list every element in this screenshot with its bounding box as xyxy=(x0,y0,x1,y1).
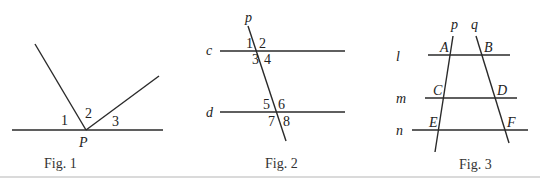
fig3-point-E: E xyxy=(428,115,438,130)
fig3-label-q: q xyxy=(471,17,478,32)
fig2-transversal-p xyxy=(248,26,286,141)
fig3-label-m: m xyxy=(396,91,406,106)
fig3-point-D: D xyxy=(496,83,507,98)
fig2-angle-7: 7 xyxy=(268,114,275,129)
fig3-point-C: C xyxy=(433,83,443,98)
fig3-label-n: n xyxy=(396,123,403,138)
fig3-point-A: A xyxy=(439,40,449,55)
fig3-label-p: p xyxy=(450,17,458,32)
fig1-angle-2: 2 xyxy=(85,106,92,121)
fig1-angle-3: 3 xyxy=(112,114,119,129)
fig3-caption: Fig. 3 xyxy=(459,157,492,172)
fig2-label-c: c xyxy=(206,43,213,58)
fig1-point-P: P xyxy=(78,135,88,150)
figure-3: p q l m n A B C D E F Fig. 3 xyxy=(396,17,528,172)
fig2-angle-8: 8 xyxy=(283,114,290,129)
figure-2: p c d 1 2 3 4 5 6 7 8 Fig. 2 xyxy=(206,10,345,171)
fig2-angle-2: 2 xyxy=(259,36,266,51)
fig2-caption: Fig. 2 xyxy=(265,156,298,171)
fig3-label-l: l xyxy=(396,49,400,64)
fig2-label-p: p xyxy=(244,10,252,25)
geometry-figures: 1 2 3 P Fig. 1 p c d 1 2 3 4 5 6 7 8 Fig… xyxy=(0,0,540,181)
fig1-caption: Fig. 1 xyxy=(44,156,77,171)
fig2-angle-5: 5 xyxy=(263,97,270,112)
fig3-point-F: F xyxy=(506,115,516,130)
fig2-angle-3: 3 xyxy=(252,52,259,67)
figure-1: 1 2 3 P Fig. 1 xyxy=(12,44,163,171)
fig2-label-d: d xyxy=(206,105,214,120)
fig3-point-B: B xyxy=(484,40,493,55)
fig1-angle-1: 1 xyxy=(61,113,68,128)
fig2-angle-4: 4 xyxy=(264,52,271,67)
fig2-angle-1: 1 xyxy=(246,36,253,51)
fig2-angle-6: 6 xyxy=(278,97,285,112)
fig1-right-ray xyxy=(86,76,159,130)
